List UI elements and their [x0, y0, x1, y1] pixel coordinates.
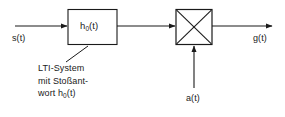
- lti-block-label: h0(t): [80, 20, 98, 34]
- lti-block-label-argument: (t): [89, 20, 98, 31]
- callout-line-3-suffix: (t): [67, 88, 76, 98]
- callout-leader-line: [66, 46, 88, 62]
- callout-line-1: LTI-System: [38, 62, 88, 75]
- aux-signal-label: a(t): [186, 93, 200, 104]
- callout-line-2: mit Stoßant-: [38, 75, 88, 88]
- input-signal-label: s(t): [12, 33, 25, 44]
- block-diagram-canvas: s(t) g(t) a(t) h0(t) LTI-System mit Stoß…: [0, 0, 285, 117]
- output-signal-label: g(t): [253, 33, 267, 44]
- callout-line-3-prefix: wort h: [38, 88, 63, 98]
- lti-callout-caption: LTI-System mit Stoßant- wort h0(t): [38, 62, 88, 103]
- callout-line-3: wort h0(t): [38, 87, 88, 103]
